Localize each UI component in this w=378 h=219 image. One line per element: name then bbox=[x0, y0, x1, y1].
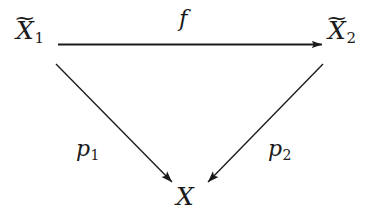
node-x-base: X bbox=[176, 182, 194, 211]
node-x-tilde-1: ~ X 1 bbox=[16, 18, 44, 46]
edge-label-f: f bbox=[179, 7, 188, 30]
edge-label-p1-subscript: 1 bbox=[91, 147, 100, 163]
arrow-p2 bbox=[208, 64, 323, 182]
edge-label-p2-subscript: 2 bbox=[283, 147, 292, 163]
edge-label-f-glyph: f bbox=[179, 5, 188, 31]
edge-label-p1: p1 bbox=[76, 138, 100, 162]
node-x: X bbox=[176, 184, 194, 209]
edge-label-p2-glyph: p bbox=[268, 136, 282, 161]
edge-label-p1-glyph: p bbox=[76, 136, 90, 161]
accented-group-xt2: ~ X bbox=[328, 18, 346, 43]
node-xt2-subscript: 2 bbox=[347, 29, 357, 47]
node-xt2-base: X bbox=[328, 18, 346, 43]
node-xt1-subscript: 1 bbox=[35, 29, 45, 47]
node-x-tilde-2: ~ X 2 bbox=[328, 18, 356, 46]
accented-group-xt1: ~ X bbox=[16, 18, 34, 43]
edge-label-p2: p2 bbox=[268, 138, 292, 162]
arrow-p1 bbox=[56, 64, 172, 182]
node-xt1-base: X bbox=[16, 18, 34, 43]
commutative-diagram: ~ X 1 ~ X 2 X f p1 p2 bbox=[0, 0, 378, 219]
